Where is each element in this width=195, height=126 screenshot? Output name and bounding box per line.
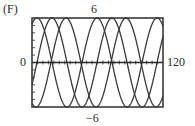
graph-plot	[0, 0, 195, 126]
